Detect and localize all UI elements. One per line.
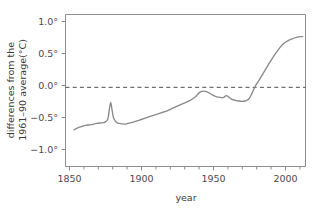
y-tick-label: −1.0° bbox=[30, 144, 58, 155]
y-axis-title-line1: differences from the bbox=[5, 42, 16, 139]
y-axis-title-line2: 1961–90 average(°C) bbox=[17, 39, 28, 141]
x-tick-label: 1850 bbox=[57, 173, 81, 184]
y-tick-label: 0.5° bbox=[38, 48, 58, 59]
temperature-anomaly-chart: 1.0° 0.5° 0.0° −0.5° −1.0° differences f… bbox=[0, 0, 318, 209]
y-tick-label: 0.0° bbox=[38, 80, 58, 91]
x-tick-label: 1900 bbox=[129, 173, 153, 184]
chart-canvas: 1.0° 0.5° 0.0° −0.5° −1.0° differences f… bbox=[0, 0, 318, 209]
x-tick-label: 1950 bbox=[201, 173, 225, 184]
y-axis-title: differences from the 1961–90 average(°C) bbox=[5, 39, 28, 141]
y-tick-label: −0.5° bbox=[30, 112, 58, 123]
chart-background bbox=[0, 0, 318, 209]
x-tick-label: 2000 bbox=[273, 173, 297, 184]
x-axis-title: year bbox=[175, 192, 196, 203]
y-tick-label: 1.0° bbox=[38, 16, 58, 27]
